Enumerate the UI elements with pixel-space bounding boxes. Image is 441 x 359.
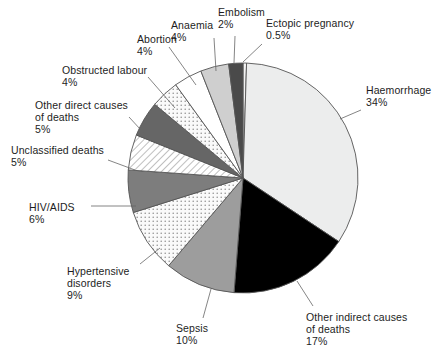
pie-label-text-ectopic-pregnancy: Ectopic pregnancy [266, 17, 354, 29]
pie-label-text-unclassified-deaths: Unclassified deaths [11, 144, 104, 156]
pie-label-text-sepsis: Sepsis [176, 322, 208, 334]
pie-slices [128, 63, 358, 293]
leader-line-embolism [234, 36, 235, 63]
pie-label-text-hypertensive-disorders: disorders [67, 277, 129, 289]
pie-label-unclassified-deaths: Unclassified deaths5% [11, 144, 104, 168]
pie-label-sepsis: Sepsis10% [176, 322, 208, 346]
pie-label-text-embolism: Embolism [218, 6, 265, 18]
pie-label-obstructed-labour: Obstructed labour4% [62, 64, 147, 88]
pie-label-embolism: Embolism2% [218, 6, 265, 30]
pie-label-text-other-direct-causes-of-deaths: of deaths [35, 111, 128, 123]
pie-label-value-unclassified-deaths: 5% [11, 156, 104, 168]
pie-label-value-abortion: 4% [137, 45, 177, 57]
pie-label-text-obstructed-labour: Obstructed labour [62, 64, 147, 76]
pie-label-value-sepsis: 10% [176, 334, 208, 346]
pie-label-value-haemorrhage: 34% [366, 96, 431, 108]
pie-label-text-other-indirect-causes-of-deaths: Other indirect causes [306, 311, 407, 323]
pie-label-text-hypertensive-disorders: Hypertensive [67, 265, 129, 277]
pie-label-hypertensive-disorders: Hypertensivedisorders9% [67, 265, 129, 302]
pie-label-value-embolism: 2% [218, 18, 265, 30]
leader-line-hypertensive-disorders [140, 248, 160, 264]
pie-label-anaemia: Anaemia4% [171, 19, 213, 43]
pie-label-ectopic-pregnancy: Ectopic pregnancy0.5% [266, 17, 354, 41]
pie-label-value-hiv-aids: 6% [29, 213, 75, 225]
leader-line-haemorrhage [340, 110, 361, 119]
pie-label-value-obstructed-labour: 4% [62, 76, 147, 88]
pie-label-other-indirect-causes-of-deaths: Other indirect causesof deaths17% [306, 311, 407, 348]
pie-label-value-other-indirect-causes-of-deaths: 17% [306, 335, 407, 347]
pie-chart-canvas [0, 0, 441, 359]
pie-label-value-hypertensive-disorders: 9% [67, 289, 129, 301]
pie-label-value-ectopic-pregnancy: 0.5% [266, 29, 354, 41]
leader-line-other-indirect-causes-of-deaths [297, 281, 313, 306]
pie-label-text-haemorrhage: Haemorrhage [366, 84, 431, 96]
pie-label-text-anaemia: Anaemia [171, 19, 213, 31]
pie-label-value-other-direct-causes-of-deaths: 5% [35, 123, 128, 135]
pie-chart: Ectopic pregnancy0.5%Haemorrhage34%Other… [0, 0, 441, 359]
pie-label-text-other-direct-causes-of-deaths: Other direct causes [35, 99, 128, 111]
pie-label-text-other-indirect-causes-of-deaths: of deaths [306, 323, 407, 335]
pie-label-haemorrhage: Haemorrhage34% [366, 84, 431, 108]
leader-line-sepsis [203, 289, 211, 318]
leader-line-ectopic-pregnancy [243, 44, 262, 62]
pie-label-hiv-aids: HIV/AIDS6% [29, 201, 75, 225]
pie-label-text-hiv-aids: HIV/AIDS [29, 201, 75, 213]
pie-label-other-direct-causes-of-deaths: Other direct causesof deaths5% [35, 99, 128, 136]
pie-label-value-anaemia: 4% [171, 31, 213, 43]
